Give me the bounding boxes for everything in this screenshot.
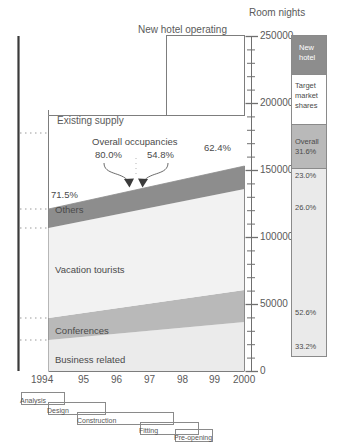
legend-segment-business-share: 33.2% xyxy=(292,340,326,356)
legend-segment-new-hotel: New hotel xyxy=(292,36,326,74)
legend-label-26: 26.0% xyxy=(295,204,316,212)
y-tick-label-100000: 100000 xyxy=(260,232,293,242)
y-tick-label-200000: 200000 xyxy=(260,98,293,108)
legend-label-overall-line1: Overall xyxy=(295,138,319,146)
legend-segment-target-market-shares: Target market shares xyxy=(292,74,326,124)
legend-segment-overall: Overall 31.6% xyxy=(292,124,326,168)
gantt-label-analysis: Analysis xyxy=(20,397,46,404)
occupancy-label-end: 62.4% xyxy=(204,143,231,153)
x-tick-label-97: 97 xyxy=(144,375,155,385)
overall-occupancies-label: Overall occupancies xyxy=(92,137,178,147)
gantt-label-construction: Construction xyxy=(77,417,116,424)
x-tick-label-1994: 1994 xyxy=(31,375,53,385)
arrowhead-left xyxy=(124,179,134,188)
legend-segment-others-share: 23.0% xyxy=(292,168,326,202)
legend-segment-conferences-share: 52.6% xyxy=(292,302,326,340)
arrowhead-right xyxy=(138,179,148,188)
band-label-vacation-tourists: Vacation tourists xyxy=(55,265,125,275)
band-label-conferences: Conferences xyxy=(55,326,109,336)
legend-label-target-line2: market xyxy=(295,92,318,100)
legend-label-new-hotel-line2: hotel xyxy=(299,54,315,62)
x-tick-label-98: 98 xyxy=(177,375,188,385)
legend-label-target-line1: Target xyxy=(295,82,316,90)
x-tick-label-96: 96 xyxy=(111,375,122,385)
gantt-label-preopening: Pre-opening xyxy=(174,434,212,441)
legend-label-23: 23.0% xyxy=(295,172,316,180)
band-label-others: Others xyxy=(55,205,84,215)
occupancy-value-left: 80.0% xyxy=(95,150,122,160)
y-tick-label-250000: 250000 xyxy=(260,31,293,41)
band-label-business-related: Business related xyxy=(55,355,125,365)
legend-label-overall-line2: 31.6% xyxy=(295,148,316,156)
occupancy-value-right: 54.8% xyxy=(147,150,174,160)
gantt-label-design: Design xyxy=(47,407,69,414)
new-hotel-box xyxy=(167,36,245,116)
legend-label-52: 52.6% xyxy=(295,309,316,317)
legend-label-33: 33.2% xyxy=(295,343,316,351)
x-tick-label-99: 99 xyxy=(209,375,220,385)
occupancy-label-start: 71.5% xyxy=(51,190,78,200)
y-tick-label-0: 0 xyxy=(260,366,266,376)
legend-bar: New hotel Target market shares Overall 3… xyxy=(291,35,327,357)
annotation-arrows xyxy=(104,163,168,181)
legend-segment-vacation-share: 26.0% xyxy=(292,202,326,302)
legend-label-target-line3: shares xyxy=(295,102,318,110)
y-tick-label-150000: 150000 xyxy=(260,165,293,175)
x-tick-label-95: 95 xyxy=(78,375,89,385)
legend-label-new-hotel-line1: New xyxy=(299,44,314,52)
gantt-label-fitting: Fitting xyxy=(139,427,158,434)
y-tick-label-50000: 50000 xyxy=(260,299,288,309)
x-tick-label-2000: 2000 xyxy=(233,375,255,385)
